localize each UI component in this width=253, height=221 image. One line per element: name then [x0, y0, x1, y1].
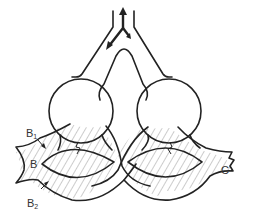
label-b: B — [30, 158, 37, 170]
label-b1: B1 — [26, 127, 37, 140]
label-b2: B2 — [27, 197, 38, 210]
label-c: C — [221, 164, 229, 176]
diagram: B1 B B2 C — [0, 0, 253, 221]
flow-arrows-icon — [106, 7, 131, 50]
diagram-canvas: B1 B B2 C — [0, 0, 253, 221]
